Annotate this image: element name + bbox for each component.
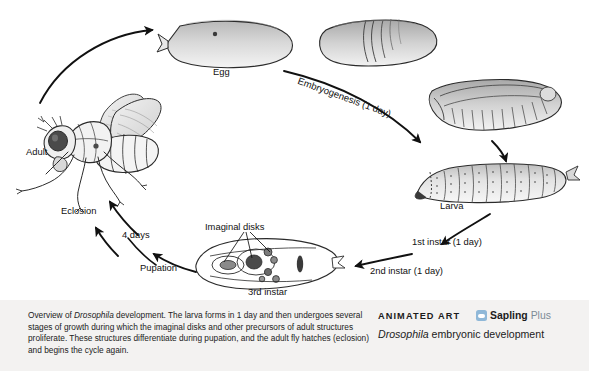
label-third-instar: 3rd instar — [248, 286, 287, 297]
animated-art-header: ANIMATED ART SaplingPlus — [378, 310, 583, 321]
egg-illustration — [157, 20, 293, 67]
sapling-wordmark: Sapling — [490, 310, 528, 321]
embryo-segmented-illustration — [429, 80, 561, 130]
animated-art-title-species: Drosophila — [378, 328, 429, 340]
animated-art-block: ANIMATED ART SaplingPlus Drosophila embr… — [378, 310, 583, 342]
embryo-gastrulation-illustration — [320, 19, 437, 66]
larva-illustration — [415, 164, 580, 203]
label-four-days: 4 days — [122, 229, 150, 240]
caption-part-1: Overview of — [28, 310, 74, 320]
arrow-pupation-tail — [128, 238, 156, 265]
sapling-plus-logo[interactable]: SaplingPlus — [476, 310, 551, 321]
plus-wordmark: Plus — [531, 310, 551, 321]
label-eclosion: Eclosion — [61, 205, 96, 216]
arrow-four-days — [96, 228, 118, 256]
caption-species-italic: Drosophila — [74, 310, 114, 320]
label-larva: Larva — [440, 200, 463, 211]
arrow-eclosion-to-egg — [40, 30, 152, 103]
label-imaginal-disks: Imaginal disks — [205, 221, 264, 232]
animated-art-label: ANIMATED ART — [378, 311, 460, 321]
label-first-instar: 1st instar (1 day) — [412, 236, 482, 247]
label-egg: Egg — [213, 66, 230, 77]
label-second-instar: 2nd instar (1 day) — [370, 265, 443, 276]
animated-art-title: Drosophila embryonic development — [378, 327, 583, 342]
animated-art-title-rest: embryonic development — [429, 328, 544, 340]
figure-caption: Overview of Drosophila development. The … — [28, 310, 373, 356]
label-pupation: Pupation — [140, 262, 177, 273]
drosophila-life-cycle-figure: Egg Larva Adult 3rd instar Eclosion 4 da… — [0, 0, 589, 371]
label-adult: Adult — [26, 146, 47, 157]
arrow-embryo-to-larva — [492, 141, 506, 161]
third-instar-pupa-illustration — [196, 232, 345, 289]
sapling-logo-icon — [476, 310, 487, 321]
